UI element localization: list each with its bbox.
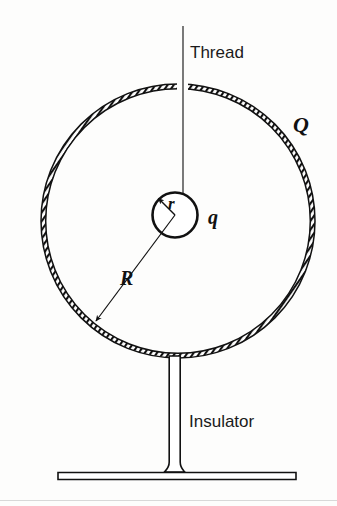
outer-radius-label: R [119, 267, 133, 289]
figure-canvas: Thread Insulator Q q r R [0, 0, 337, 506]
insulator-stand [58, 356, 296, 480]
insulator-label: Insulator [189, 412, 255, 431]
physics-figure: Thread Insulator Q q r R [0, 0, 337, 506]
outer-radius-arrow [96, 215, 175, 321]
inner-charge-label: q [208, 206, 218, 229]
thread-label: Thread [190, 43, 244, 62]
insulator-column [164, 356, 184, 472]
insulator-base-plate [58, 473, 296, 480]
inner-radius-label: r [168, 194, 175, 213]
shell-charge-label: Q [293, 112, 309, 137]
